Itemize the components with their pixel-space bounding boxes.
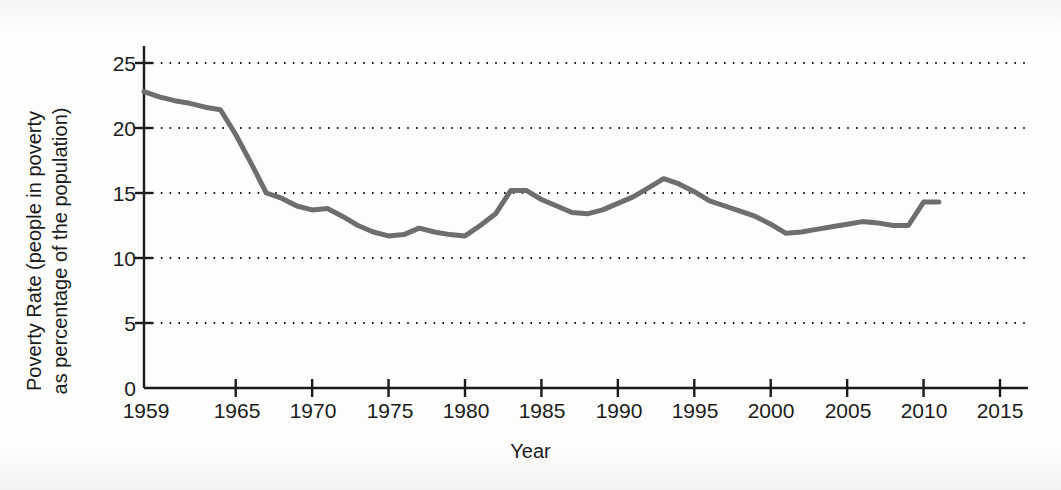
poverty-rate-line-chart: Poverty Rate (people in poverty as perce… <box>0 0 1061 490</box>
poverty-rate-line <box>144 92 939 236</box>
plot-area: Poverty Rate (people in poverty as perce… <box>0 0 1061 490</box>
axes <box>144 46 1028 388</box>
chart-canvas <box>0 0 1061 490</box>
gridlines <box>152 63 1028 323</box>
